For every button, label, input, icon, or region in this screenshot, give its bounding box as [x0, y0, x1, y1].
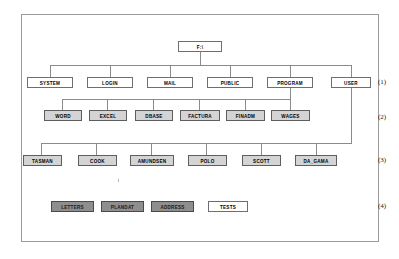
connector-root-stem [200, 52, 201, 65]
connector-level1-drop-2 [110, 65, 111, 77]
level-label-4: (4) [378, 201, 386, 212]
connector-level2-drop-6 [290, 99, 291, 110]
tree-node-da-gama[interactable]: DA_GAMA [295, 155, 337, 166]
connector-level3-bus [41, 143, 352, 144]
diagram-page: F:\ SYSTEM LOGIN MAIL PUBLIC PROGRAM USE… [0, 0, 399, 259]
connector-level2-bus [62, 99, 291, 100]
connector-level1-bus [50, 65, 351, 66]
tree-node-dbase[interactable]: DBASE [135, 110, 173, 121]
tree-node-mail[interactable]: MAIL [147, 77, 193, 88]
directory-tree: F:\ SYSTEM LOGIN MAIL PUBLIC PROGRAM USE… [0, 0, 399, 259]
connector-level3-drop-1 [41, 143, 42, 155]
tree-node-scott[interactable]: SCOTT [242, 155, 281, 166]
tree-node-address[interactable]: ADDRESS [151, 201, 194, 212]
connector-level3-drop-3 [151, 143, 152, 155]
connector-level3-drop-6 [316, 143, 317, 155]
tree-node-factura[interactable]: FACTURA [180, 110, 220, 121]
tree-node-root[interactable]: F:\ [178, 41, 222, 52]
tree-node-amundsen[interactable]: AMUNDSEN [130, 155, 174, 166]
tree-node-word[interactable]: WORD [44, 110, 82, 121]
tree-node-polo[interactable]: POLO [188, 155, 227, 166]
connector-level2-drop-2 [107, 99, 108, 110]
tree-node-finadm[interactable]: FINADM [226, 110, 265, 121]
tree-node-user[interactable]: USER [331, 77, 371, 88]
connector-level1-drop-5 [290, 65, 291, 77]
connector-level3-drop-2 [96, 143, 97, 155]
connector-user-stem [351, 88, 352, 143]
tree-node-program[interactable]: PROGRAM [267, 77, 313, 88]
connector-level2-drop-5 [245, 99, 246, 110]
tree-node-public[interactable]: PUBLIC [207, 77, 253, 88]
connector-level3-drop-4 [206, 143, 207, 155]
connector-level2-drop-3 [153, 99, 154, 110]
tree-node-tasman[interactable]: TASMAN [23, 155, 62, 166]
level-label-1: (1) [378, 77, 386, 88]
artifact-speck [118, 179, 119, 182]
level-label-2: (2) [378, 112, 386, 123]
connector-level1-drop-4 [230, 65, 231, 77]
connector-level1-drop-3 [170, 65, 171, 77]
connector-level3-drop-5 [261, 143, 262, 155]
level-label-3: (3) [378, 155, 386, 166]
tree-node-letters[interactable]: LETTERS [51, 201, 94, 212]
tree-node-cook[interactable]: COOK [78, 155, 117, 166]
connector-level2-drop-1 [62, 99, 63, 110]
connector-level1-drop-6 [351, 65, 352, 77]
connector-program-stem [290, 88, 291, 99]
tree-node-tests[interactable]: TESTS [208, 201, 248, 212]
tree-node-system[interactable]: SYSTEM [27, 77, 73, 88]
tree-node-excel[interactable]: EXCEL [89, 110, 127, 121]
connector-level2-drop-4 [199, 99, 200, 110]
connector-level1-drop-1 [50, 65, 51, 77]
tree-node-wages[interactable]: WAGES [271, 110, 310, 121]
tree-node-login[interactable]: LOGIN [87, 77, 133, 88]
tree-node-plandat[interactable]: PLANDAT [101, 201, 144, 212]
